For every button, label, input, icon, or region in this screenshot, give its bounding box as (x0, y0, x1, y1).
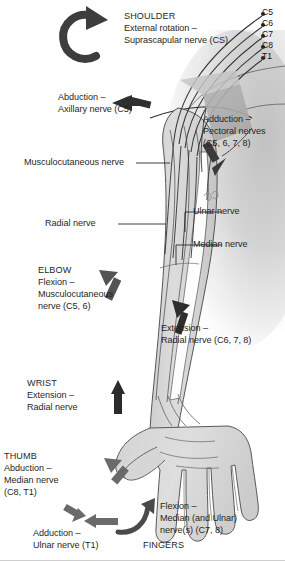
shoulder-abduction-line1: Abduction – (58, 92, 105, 104)
shoulder-abduction-line2: Axillary nerve (C5) (58, 104, 132, 116)
shoulder-external-rotation-line2: External rotation – (124, 23, 197, 35)
spinal-root-label-c6: C6 (262, 19, 273, 28)
median-nerve-label: Median nerve (193, 239, 248, 251)
finger-flexion-arrow-icon (118, 498, 155, 532)
finger-adduction-line1: Adduction – (33, 528, 80, 540)
wrist-heading: WRIST (27, 378, 57, 390)
elbow-heading: ELBOW (38, 265, 71, 277)
spinal-root-label-t1: T1 (262, 52, 272, 61)
finger-flexion-line3: nerve(s) (C7, 8) (160, 525, 223, 537)
radial-nerve-label: Radial nerve (45, 218, 95, 230)
shoulder-adduction-line3: (C5, 6, 7, 8) (203, 138, 250, 150)
spinal-root-label-c5: C5 (262, 8, 273, 17)
shoulder-external-rotation-line3: Suprascapular nerve (CS) (124, 35, 228, 47)
shoulder-adduction-line1: Adduction – (203, 114, 250, 126)
wrist-extension-line3: Radial nerve (27, 402, 77, 414)
thumb-heading: THUMB (4, 451, 37, 463)
thumb-abduction-line3: Median nerve (4, 475, 59, 487)
ulnar-nerve-label: Ulnar nerve (193, 206, 239, 218)
elbow-extension-line1: Extension – (161, 323, 208, 335)
elbow-flexion-line4: nerve (C5, 6) (38, 301, 90, 313)
figure-canvas: C5 C6 C7 C8 T1 SHOULDER External rotatio… (0, 0, 285, 561)
elbow-flexion-line2: Flexion – (38, 277, 74, 289)
shoulder-adduction-line2: Pectoral nerves (203, 126, 265, 138)
finger-flexion-line2: Median (and Ulnar) (160, 513, 237, 525)
spinal-root-label-c8: C8 (262, 41, 273, 50)
shoulder-heading: SHOULDER (124, 11, 175, 23)
spinal-root-label-c7: C7 (262, 30, 273, 39)
wrist-extension-arrow-icon (111, 380, 125, 414)
finger-adduction-arrow-icon (63, 504, 118, 528)
elbow-extension-line2: Radial nerve (C6, 7, 8) (161, 335, 251, 347)
finger-adduction-line2: Ulnar nerve (T1) (33, 540, 98, 552)
finger-flexion-line1: Flexion – (160, 501, 196, 513)
thumb-abduction-line2: Abduction – (4, 463, 51, 475)
musculocutaneous-nerve-label: Musculocutaneous nerve (24, 157, 124, 169)
fingers-heading: FINGERS (143, 540, 184, 552)
elbow-flexion-line3: Musculocutaneous (38, 289, 113, 301)
wrist-extension-line2: Extension – (27, 390, 74, 402)
rotation-arrow-icon (63, 6, 108, 59)
thumb-abduction-line4: (C8, T1) (4, 487, 37, 499)
